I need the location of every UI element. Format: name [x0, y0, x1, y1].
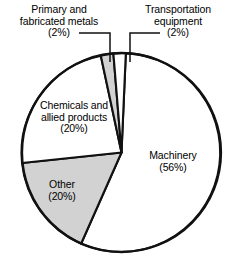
pie-chart: Primary and fabricated metals (2%) Trans…	[0, 0, 239, 270]
slice-label-primary-metals-value: (2%)	[4, 27, 114, 39]
slice-label-primary-metals: Primary and fabricated metals (2%)	[4, 4, 114, 39]
slice-label-other-value: (20%)	[29, 191, 95, 203]
slice-label-chemicals-line1: Chemicals and	[20, 100, 128, 112]
slice-label-chemicals-value: (20%)	[20, 123, 128, 135]
slice-label-primary-metals-line1: Primary and	[4, 4, 114, 16]
slice-label-transportation-value: (2%)	[122, 27, 234, 39]
slice-label-transportation-line1: Transportation	[122, 4, 234, 16]
slice-label-machinery: Machinery (56%)	[131, 150, 215, 173]
slice-label-transportation: Transportation equipment (2%)	[122, 4, 234, 39]
slice-label-machinery-line1: Machinery	[131, 150, 215, 162]
slice-label-machinery-value: (56%)	[131, 162, 215, 174]
slice-label-chemicals: Chemicals and allied products (20%)	[20, 100, 128, 135]
pie-chart-graphic	[0, 0, 239, 270]
slice-label-other: Other (20%)	[29, 179, 95, 202]
slice-label-other-line1: Other	[29, 179, 95, 191]
